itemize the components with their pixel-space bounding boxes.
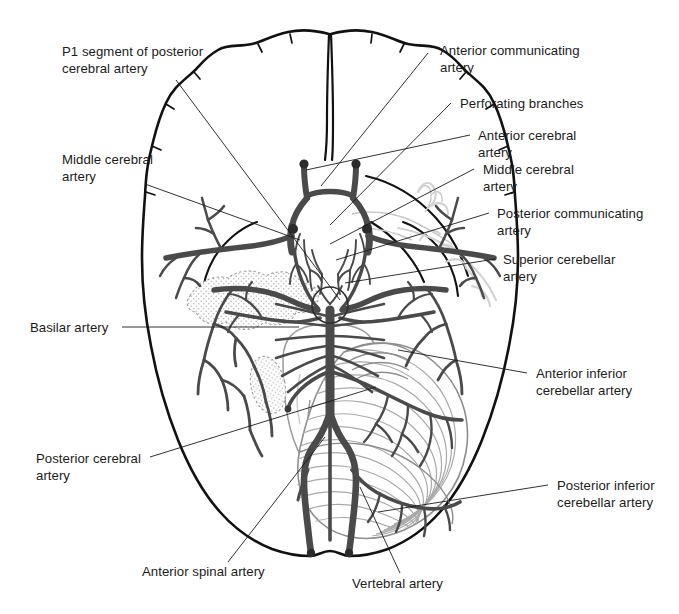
label-anterior-inferior-cerebellar-artery: Anterior inferior cerebellar artery: [536, 366, 632, 399]
right-sylvian-edge: [366, 176, 468, 276]
label-posterior-communicating-artery: Posterior communicating artery: [497, 206, 643, 239]
a1-segment-left: [292, 198, 307, 226]
leader-middle-cerebral-artery-left: [145, 184, 300, 240]
leader-anterior-cerebral-artery: [306, 135, 470, 170]
label-posterior-inferior-cerebellar-artery: Posterior inferior cerebellar artery: [557, 478, 655, 511]
a1-segment-right: [353, 198, 368, 226]
ica-right-cut-end: [362, 224, 372, 234]
leader-middle-cerebral-artery-right: [330, 169, 474, 244]
aca-right-cut-end: [351, 159, 360, 168]
right-medial-temporal-edge: [371, 222, 424, 282]
longitudinal-fissure: [325, 34, 329, 160]
leader-perforating-branches: [330, 103, 451, 225]
label-superior-cerebellar-artery: Superior cerebellar artery: [503, 252, 615, 285]
occipital-midline-notch: [310, 551, 350, 556]
leader-anterior-communicating-artery: [321, 53, 428, 186]
aca-left-cut-end: [299, 159, 308, 168]
label-basilar-artery: Basilar artery: [30, 320, 108, 337]
label-anterior-communicating-artery: Anterior communicating artery: [440, 43, 580, 76]
label-anterior-spinal-artery: Anterior spinal artery: [142, 564, 265, 581]
label-vertebral-artery: Vertebral artery: [352, 576, 443, 593]
vertebral-left-cut-end: [307, 549, 315, 557]
longitudinal-fissure-right: [331, 34, 333, 160]
label-middle-cerebral-artery-left: Middle cerebral artery: [62, 152, 153, 185]
anterior-communicating-artery: [307, 192, 353, 197]
label-middle-cerebral-artery-right: Middle cerebral artery: [483, 162, 574, 195]
vertebral-right-cut-end: [345, 549, 353, 557]
brain-arteries-illustration: [0, 0, 679, 614]
label-perforating-branches: Perforating branches: [460, 96, 583, 113]
label-posterior-cerebral-artery: Posterior cerebral artery: [36, 451, 141, 484]
label-p1-segment-of-posterior-cerebral-artery: P1 segment of posterior cerebral artery: [62, 44, 203, 77]
aica-left-cut-end: [285, 406, 292, 413]
label-anterior-cerebral-artery: Anterior cerebral artery: [478, 128, 576, 161]
arteries-group: [160, 159, 500, 557]
brain-arterial-supply-figure: P1 segment of posterior cerebral arteryM…: [0, 0, 679, 614]
leader-p1-segment-of-posterior-cerebral-artery: [176, 80, 340, 300]
